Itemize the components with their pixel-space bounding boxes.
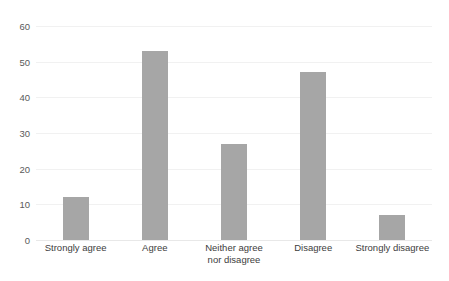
bar — [142, 51, 168, 240]
x-axis-label-line: nor disagree — [186, 254, 282, 266]
bar — [379, 215, 405, 240]
plot-area: 0102030405060 — [36, 26, 432, 240]
bar-slot — [194, 26, 273, 240]
bar — [63, 197, 89, 240]
bar-chart: 0102030405060 Strongly agreeAgreeNeither… — [0, 0, 449, 281]
bar — [221, 144, 247, 240]
x-axis-label-line: Neither agree — [205, 242, 263, 253]
x-axis-label-line: Strongly agree — [45, 242, 107, 253]
y-tick-label-30: 30 — [0, 128, 30, 139]
bar-slot — [36, 26, 115, 240]
gridline-0 — [36, 240, 432, 241]
bar-slot — [353, 26, 432, 240]
x-axis-label-line: Agree — [142, 242, 167, 253]
x-axis-label-line: Disagree — [294, 242, 332, 253]
bar-slot — [115, 26, 194, 240]
y-tick-label-0: 0 — [0, 235, 30, 246]
x-axis-label-line: Strongly disagree — [355, 242, 429, 253]
bar-series — [36, 26, 432, 240]
x-axis-label: Strongly disagree — [344, 242, 440, 254]
y-tick-label-10: 10 — [0, 199, 30, 210]
y-tick-label-20: 20 — [0, 163, 30, 174]
y-tick-label-40: 40 — [0, 92, 30, 103]
x-axis-labels: Strongly agreeAgreeNeither agree nor dis… — [36, 242, 432, 281]
y-tick-label-50: 50 — [0, 56, 30, 67]
bar — [300, 72, 326, 240]
y-tick-label-60: 60 — [0, 21, 30, 32]
clipped-chart-title — [0, 0, 449, 11]
bar-slot — [274, 26, 353, 240]
